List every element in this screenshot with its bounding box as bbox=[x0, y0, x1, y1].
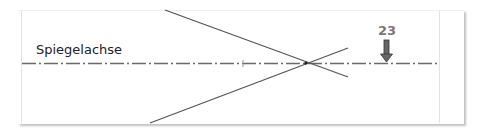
lower-ray bbox=[150, 48, 348, 123]
upper-ray bbox=[165, 10, 348, 77]
mirror-axis-label: Spiegelachse bbox=[36, 42, 122, 57]
down-arrow-icon bbox=[381, 40, 393, 62]
marker-number: 23 bbox=[378, 23, 396, 38]
intersection-point bbox=[304, 61, 307, 64]
diagram-canvas bbox=[0, 0, 490, 132]
